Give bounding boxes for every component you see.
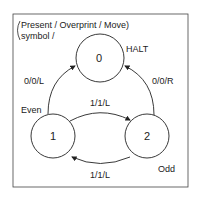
transition-2-1 [72, 157, 130, 164]
transition-1-0-label: 0/0/L [24, 76, 44, 86]
transition-2-1-label: 1/1/L [90, 170, 110, 180]
transition-2-0-label: 0/0/R [152, 76, 174, 86]
transition-1-2 [70, 113, 130, 121]
state-1-label: 1 [50, 130, 56, 142]
state-0-annotation: HALT [126, 44, 149, 54]
transition-1-0 [48, 66, 75, 114]
state-diagram: Present / Overprint / Move) symbol / 0 H… [0, 0, 199, 199]
state-1-annotation: Even [21, 105, 42, 115]
legend-line1: Present / Overprint / Move) [21, 20, 129, 30]
transition-1-2-label: 1/1/L [90, 98, 110, 108]
state-0-label: 0 [96, 52, 102, 64]
state-2-label: 2 [144, 130, 150, 142]
state-2-annotation: Odd [158, 164, 175, 174]
transition-2-0 [125, 66, 154, 115]
legend-line2: symbol / [21, 31, 55, 41]
legend-paren [18, 21, 21, 40]
